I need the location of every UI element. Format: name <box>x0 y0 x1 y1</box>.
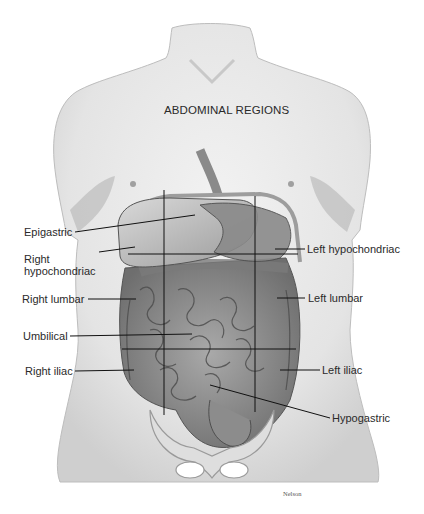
label-right-hypochondriac: Right hypochondriac <box>24 253 96 277</box>
label-right-iliac: Right iliac <box>25 365 73 377</box>
abdominal-regions-diagram: ABDOMINAL REGIONS Epigastric Right hypoc… <box>0 0 424 514</box>
label-epigastric: Epigastric <box>24 226 72 238</box>
label-left-hypochondriac: Left hypochondriac <box>307 243 400 255</box>
artist-signature: Nelson <box>283 490 301 497</box>
label-left-iliac: Left iliac <box>322 364 362 376</box>
nipple-left <box>288 181 294 187</box>
nipple-right <box>130 181 136 187</box>
label-right-hypochondriac-line2: hypochondriac <box>24 265 96 277</box>
label-right-hypochondriac-line1: Right <box>24 253 96 265</box>
label-left-lumbar: Left lumbar <box>308 292 363 304</box>
label-hypogastric: Hypogastric <box>332 412 390 424</box>
label-right-lumbar: Right lumbar <box>22 293 84 305</box>
label-umbilical: Umbilical <box>23 330 68 342</box>
diagram-title: ABDOMINAL REGIONS <box>164 104 289 116</box>
